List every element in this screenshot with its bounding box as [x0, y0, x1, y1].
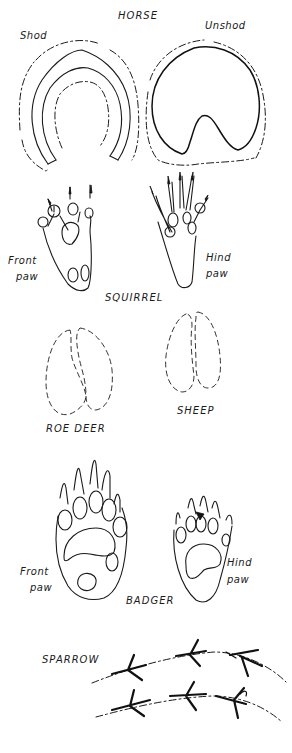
- sparrow-track: [92, 640, 286, 722]
- badger-front-track: [56, 460, 127, 599]
- badger-hind-track: [174, 496, 232, 602]
- roe-deer-track: [46, 328, 112, 415]
- sheep-track: [166, 312, 221, 392]
- squirrel-front-track: [38, 185, 93, 291]
- squirrel-hind-track: [150, 172, 208, 288]
- horse-shod-track: [19, 41, 138, 171]
- tracks-drawing: [0, 0, 292, 753]
- horse-unshod-track: [146, 40, 265, 165]
- animal-tracks-diagram: HORSE Shod Unshod Front paw Hind paw SQU…: [0, 0, 292, 753]
